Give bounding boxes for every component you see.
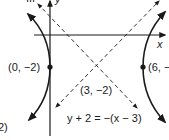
vertex-left-label: (0, −2) [8, 61, 40, 73]
y-axis-label: y [54, 0, 62, 5]
top-left-partial-label: III [26, 0, 35, 4]
vertex-right-label: (6, − [148, 61, 169, 73]
vertex-left-dot [47, 64, 52, 69]
hyperbola-diagram: III y x (0, −2) (6, − (3, −2) y + 2 = −(… [0, 0, 169, 140]
center-label: (3, −2) [80, 84, 112, 96]
asymptote-equation-label: y + 2 = −(x − 3) [67, 112, 142, 124]
vertex-right-dot [140, 64, 145, 69]
bottom-left-partial-label: 2) [0, 121, 8, 133]
x-axis-label: x [156, 38, 163, 50]
